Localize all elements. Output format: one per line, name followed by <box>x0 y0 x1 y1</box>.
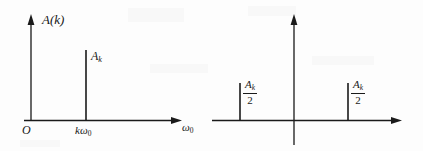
y-axis-arrowhead <box>291 14 298 25</box>
fraction-numerator-subscript: k <box>360 83 363 92</box>
fraction-numerator: Ak <box>351 79 365 92</box>
x-tick-label-kw0: kω0 <box>75 125 91 138</box>
fraction-denominator: 2 <box>351 95 365 107</box>
y-axis-label-amplitude: A(k) <box>42 13 64 26</box>
x-axis-arrowhead <box>391 117 402 124</box>
y-axis-arrowhead <box>28 14 35 25</box>
origin-label-left: O <box>22 124 31 136</box>
x-tick-subscript: 0 <box>88 129 92 138</box>
peak-value-label-ak: Ak <box>91 50 102 64</box>
chart-panel-amplitude-spectrum: A(k) Ak O kω0 ω0 <box>0 0 212 151</box>
peak-value-label-ak-over-2-left: Ak 2 <box>243 79 257 106</box>
fraction-numerator-base: A <box>353 78 360 90</box>
fraction-denominator: 2 <box>243 95 257 107</box>
amplitude-spectrum-axes <box>0 0 212 151</box>
x-axis-arrowhead <box>171 117 182 124</box>
figure-canvas: A(k) Ak O kω0 ω0 |C(k)| O − kω0 kω0 ω Ak… <box>0 0 423 151</box>
x-tick-base: kω <box>75 124 88 136</box>
x-axis-base: ω <box>182 121 190 133</box>
fraction-numerator-base: A <box>245 78 252 90</box>
fraction-numerator-subscript: k <box>252 83 255 92</box>
fraction-numerator: Ak <box>243 79 257 92</box>
peak-value-subscript: k <box>98 55 102 64</box>
complex-spectrum-axes <box>212 0 423 151</box>
peak-value-label-ak-over-2-right: Ak 2 <box>351 79 365 106</box>
x-axis-subscript: 0 <box>190 126 194 135</box>
x-axis-label-omega0: ω0 <box>182 122 194 135</box>
chart-panel-complex-coefficient-spectrum: |C(k)| O − kω0 kω0 ω <box>212 0 423 151</box>
